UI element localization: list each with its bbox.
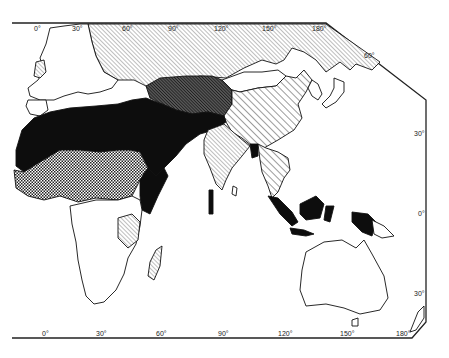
region-sumatra — [268, 196, 298, 226]
label-lat-30s: 30° — [414, 290, 425, 297]
region-korea — [308, 80, 322, 100]
world-map: 0° 30° 60° 90° 120° 150° 180° 0° 30° 60°… — [0, 0, 449, 358]
label-lon-top-60: 60° — [122, 25, 133, 32]
region-sulawesi — [324, 206, 334, 222]
label-lat-60n: 60° — [364, 52, 375, 59]
label-lon-top-0: 0° — [34, 25, 41, 32]
bottom-longitude-labels: 0° 30° 60° 90° 120° 150° 180° — [42, 330, 411, 337]
label-lon-top-180: 180° — [312, 25, 327, 32]
label-lon-top-90: 90° — [168, 25, 179, 32]
region-new-zealand — [410, 306, 424, 332]
label-lon-bottom-0: 0° — [42, 330, 49, 337]
label-lat-0: 0° — [418, 210, 425, 217]
label-lon-bottom-120: 120° — [278, 330, 293, 337]
region-maldives — [209, 190, 213, 214]
region-southern-africa — [70, 196, 142, 304]
region-madagascar — [148, 246, 162, 280]
region-bangladesh — [250, 144, 258, 158]
region-java — [290, 228, 314, 236]
region-png — [372, 220, 394, 238]
label-lon-bottom-60: 60° — [156, 330, 167, 337]
label-lon-top-150: 150° — [262, 25, 277, 32]
region-southeast-asia — [258, 144, 290, 198]
region-tasmania — [352, 318, 358, 326]
region-horn-of-africa — [140, 168, 168, 214]
label-lon-top-30: 30° — [72, 25, 83, 32]
label-lon-top-120: 120° — [214, 25, 229, 32]
region-borneo — [300, 196, 324, 220]
region-australia — [300, 240, 388, 314]
label-lon-bottom-150: 150° — [340, 330, 355, 337]
region-sri-lanka — [232, 186, 237, 196]
label-lat-30n: 30° — [414, 130, 425, 137]
label-lon-bottom-30: 30° — [96, 330, 107, 337]
region-japan — [322, 78, 344, 108]
label-lon-bottom-90: 90° — [218, 330, 229, 337]
label-lon-bottom-180: 180° — [396, 330, 411, 337]
